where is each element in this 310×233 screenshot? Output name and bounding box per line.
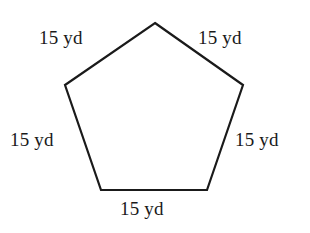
side-label-bottom: 15 yd	[120, 198, 164, 220]
pentagon-figure: 15 yd 15 yd 15 yd 15 yd 15 yd	[0, 0, 310, 233]
side-label-top-left: 15 yd	[39, 27, 83, 49]
side-label-left: 15 yd	[10, 129, 54, 151]
side-label-right: 15 yd	[235, 129, 279, 151]
side-label-top-right: 15 yd	[198, 27, 242, 49]
